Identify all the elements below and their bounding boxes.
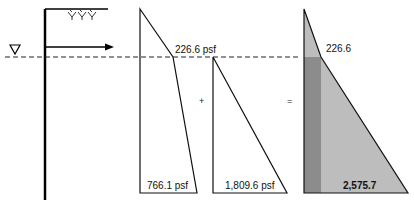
diagram-1-bottom-label: 766.1 psf — [147, 180, 188, 191]
pressure-diagram: 226.6 psf 766.1 psf + 1,809.6 psf = 226.… — [0, 0, 414, 207]
force-arrow-icon — [45, 44, 114, 51]
plus-operator: + — [199, 96, 204, 106]
diagram-1-shape — [140, 9, 197, 193]
diagram-3-bottom-label: 2,575.7 — [343, 180, 377, 191]
diagram-2-bottom-label: 1,809.6 psf — [225, 180, 275, 191]
diagram-3-shape — [304, 9, 408, 193]
diagram-3-top-label: 226.6 — [326, 43, 351, 54]
diagram-2-shape — [213, 57, 287, 193]
equals-operator: = — [287, 96, 292, 106]
water-table-icon — [10, 45, 20, 54]
retaining-wall — [45, 9, 108, 200]
diagram-1-top-label: 226.6 psf — [175, 44, 216, 55]
ground-surface-icon — [68, 10, 96, 20]
